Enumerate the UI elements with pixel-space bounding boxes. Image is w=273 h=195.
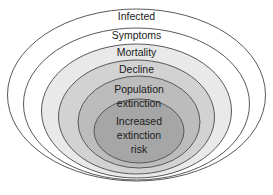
ring-label-population-extinction: Populationextinction [114,83,164,109]
nested-ellipse-diagram: InfectedSymptomsMortalityDeclinePopulati… [0,0,273,195]
ring-label-line: Increased [116,115,162,127]
ring-label-mortality: Mortality [117,46,157,58]
ring-label-line: Infected [118,10,156,22]
ring-label-line: Symptoms [112,29,162,41]
ring-label-group-mortality: Mortality [117,46,157,58]
ring-label-line: Mortality [117,46,157,58]
ring-label-group-decline: Decline [119,63,154,75]
ring-label-line: extinction [117,129,162,141]
ring-label-group-infected: Infected [118,10,156,22]
ring-label-line: Population [114,83,164,95]
diagram-canvas: InfectedSymptomsMortalityDeclinePopulati… [0,0,273,195]
ring-label-group-population-extinction: Populationextinction [114,83,164,109]
ring-label-line: risk [131,143,148,155]
ring-label-decline: Decline [119,63,154,75]
ring-label-symptoms: Symptoms [112,29,162,41]
ring-label-group-symptoms: Symptoms [112,29,162,41]
ring-label-infected: Infected [118,10,156,22]
ring-label-line: extinction [117,97,162,109]
ring-label-line: Decline [119,63,154,75]
